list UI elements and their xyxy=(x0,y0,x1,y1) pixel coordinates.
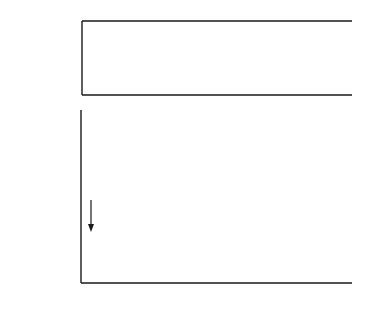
rain-arrow-icon xyxy=(88,200,94,232)
figure xyxy=(0,0,369,331)
spore-panel xyxy=(81,110,352,283)
weather-panel xyxy=(82,21,352,95)
